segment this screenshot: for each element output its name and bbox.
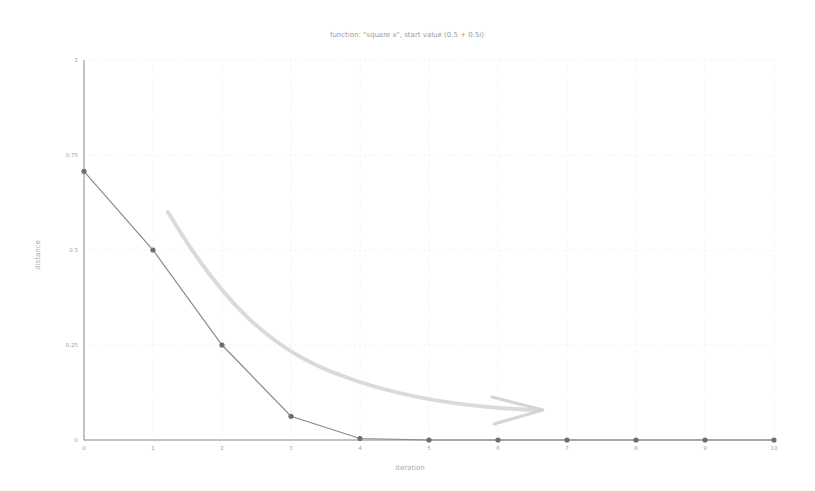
x-tick-label: 3	[289, 445, 293, 451]
x-tick-label: 8	[634, 445, 638, 451]
data-point	[426, 437, 431, 442]
x-tick-label: 9	[703, 445, 707, 451]
y-axis-label: distance	[34, 240, 42, 270]
chart-canvas: function: "square x", start value (0.5 +…	[0, 0, 815, 491]
data-point	[564, 437, 569, 442]
x-axis-label: iteration	[395, 464, 425, 472]
data-point	[495, 437, 500, 442]
chart-title: function: "square x", start value (0.5 +…	[330, 31, 484, 39]
x-tick-label: 6	[496, 445, 500, 451]
y-tick-label: 0.75	[66, 152, 79, 158]
data-point	[702, 437, 707, 442]
x-tick-label: 0	[82, 445, 86, 451]
y-tick-label: 0.25	[66, 342, 79, 348]
data-point	[357, 436, 362, 441]
data-point	[288, 414, 293, 419]
y-tick-labels: 00.250.50.751	[66, 57, 79, 443]
convergence-arrow-icon	[168, 212, 543, 424]
y-tick-label: 0	[75, 437, 79, 443]
data-point	[219, 342, 224, 347]
x-tick-label: 1	[151, 445, 155, 451]
x-tick-labels: 012345678910	[82, 445, 778, 451]
y-tick-label: 1	[75, 57, 79, 63]
data-point	[150, 247, 155, 252]
data-point	[771, 437, 776, 442]
x-tick-label: 4	[358, 445, 362, 451]
y-tick-label: 0.5	[69, 247, 78, 253]
data-point	[633, 437, 638, 442]
data-point	[81, 169, 86, 174]
x-tick-label: 10	[771, 445, 778, 451]
gridlines	[84, 60, 774, 440]
x-tick-label: 7	[565, 445, 569, 451]
x-tick-label: 5	[427, 445, 431, 451]
x-tick-label: 2	[220, 445, 224, 451]
